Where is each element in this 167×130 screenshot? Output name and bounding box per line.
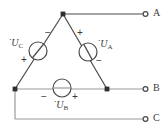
junction-node-left-bottom: [13, 87, 18, 92]
polarity-minus-ub: −: [41, 92, 47, 102]
polarity-plus-ua: +: [77, 28, 83, 38]
polarity-minus-ua: −: [96, 56, 102, 66]
source-ub-subscript: B: [64, 104, 69, 112]
terminal-marker-group: [143, 12, 148, 122]
source-ua-subscript: A: [108, 43, 113, 51]
terminal-c-open-circle[interactable]: [143, 117, 148, 122]
circuit-schematic-canvas: [0, 0, 167, 130]
source-label-ub: ˙UB: [53, 100, 68, 110]
source-label-uc: ˙UC: [8, 38, 23, 48]
terminal-label-c: C: [153, 113, 160, 123]
terminal-a-open-circle[interactable]: [143, 12, 148, 17]
source-uc-subscript: C: [19, 42, 24, 50]
source-ua-symbol: U: [100, 38, 107, 49]
terminal-b-open-circle[interactable]: [143, 87, 148, 92]
polarity-plus-ub: +: [72, 92, 78, 102]
source-ub-symbol: U: [56, 99, 63, 110]
terminal-label-b: B: [153, 83, 160, 93]
circuit-diagram: A B C ˙UC − + ˙UA + − ˙UB − +: [0, 0, 167, 130]
terminal-label-a: A: [153, 8, 160, 18]
junction-node-right-bottom: [105, 87, 110, 92]
source-uc-symbol: U: [11, 37, 18, 48]
junction-node-apex: [61, 12, 66, 17]
source-label-ua: ˙UA: [97, 39, 113, 49]
polarity-minus-uc: −: [45, 28, 51, 38]
polarity-plus-uc: +: [21, 55, 27, 65]
